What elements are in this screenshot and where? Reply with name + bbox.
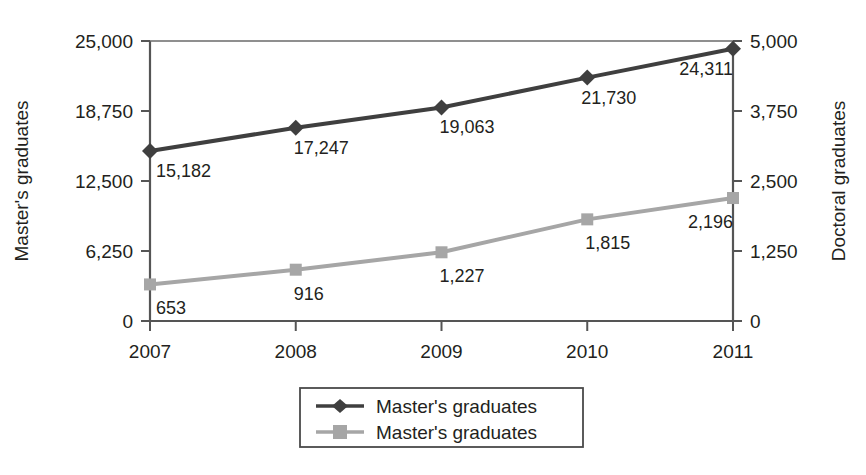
chart-container: 06,25012,50018,75025,000 01,2502,5003,75… <box>0 0 866 475</box>
left-tick-label: 6,250 <box>85 241 133 262</box>
left-tick-label: 12,500 <box>75 171 133 192</box>
data-label-doctoral: 653 <box>156 298 186 318</box>
legend-label-1: Master's graduates <box>376 422 537 443</box>
left-tick-label: 0 <box>122 311 133 332</box>
square-marker <box>727 192 739 204</box>
right-tick-label: 2,500 <box>750 171 798 192</box>
right-tick-label: 1,250 <box>750 241 798 262</box>
right-axis-title: Doctoral graduates <box>828 101 849 262</box>
left-axis-title: Master's graduates <box>11 101 32 262</box>
x-tick-label: 2009 <box>420 341 462 362</box>
x-tick-label: 2008 <box>275 341 317 362</box>
right-tick-label: 5,000 <box>750 31 798 52</box>
legend-label-0: Master's graduates <box>376 396 537 417</box>
square-marker <box>144 278 156 290</box>
square-icon <box>333 425 347 439</box>
data-label-masters: 19,063 <box>440 117 495 137</box>
data-label-doctoral: 1,227 <box>440 266 485 286</box>
data-label-doctoral: 916 <box>294 284 324 304</box>
data-label-doctoral: 2,196 <box>688 212 733 232</box>
left-tick-label: 18,750 <box>75 101 133 122</box>
x-tick-label: 2010 <box>566 341 608 362</box>
x-tick-label: 2011 <box>713 341 754 362</box>
chart-legend: Master's graduates Master's graduates <box>300 388 583 447</box>
right-tick-label: 3,750 <box>750 101 798 122</box>
data-label-masters: 21,730 <box>581 88 636 108</box>
right-tick-label: 0 <box>750 311 761 332</box>
square-marker <box>290 264 302 276</box>
square-marker <box>581 213 593 225</box>
left-tick-label: 25,000 <box>75 31 133 52</box>
square-marker <box>436 246 448 258</box>
data-label-masters: 24,311 <box>679 59 733 79</box>
data-label-doctoral: 1,815 <box>585 233 630 253</box>
data-label-masters: 17,247 <box>294 138 349 158</box>
data-label-masters: 15,182 <box>156 161 211 181</box>
x-tick-label: 2007 <box>129 341 171 362</box>
line-chart: 06,25012,50018,75025,000 01,2502,5003,75… <box>0 0 866 475</box>
